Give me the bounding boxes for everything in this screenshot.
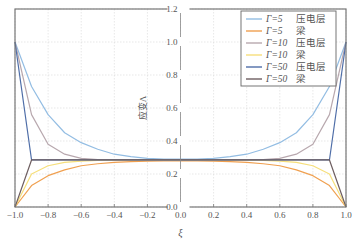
- x-axis-label: ξ: [178, 227, 183, 239]
- legend-label: 压电层: [296, 37, 326, 48]
- legend-gamma: Γ=50: [265, 62, 288, 72]
- x-tick-label: 0.8: [307, 210, 319, 220]
- legend-gamma: Γ=10: [265, 38, 288, 48]
- legend-label: 梁: [296, 25, 306, 36]
- y-tick-label: 0.8: [166, 70, 178, 80]
- x-tick-label: 0.2: [208, 210, 219, 220]
- legend-gamma: Γ=5: [265, 26, 283, 36]
- legend-label: 压电层: [296, 13, 326, 24]
- y-tick-label: 0.0: [166, 202, 178, 212]
- legend-gamma: Γ=50: [265, 74, 288, 84]
- legend-gamma: Γ=5: [265, 14, 283, 24]
- legend-label: 梁: [296, 49, 306, 60]
- x-tick-label: 0.4: [241, 210, 253, 220]
- x-tick-label: −1.0: [7, 210, 24, 220]
- y-tick-label: 0.6: [166, 103, 178, 113]
- x-tick-label: −0.2: [139, 210, 155, 220]
- legend: Γ=5压电层Γ=5梁Γ=10压电层Γ=10梁Γ=50压电层Γ=50梁: [241, 11, 336, 86]
- legend-label: 压电层: [296, 61, 326, 72]
- y-axis-label: 应变Λ: [137, 95, 148, 120]
- legend-gamma: Γ=10: [265, 50, 288, 60]
- y-tick-label: 1.2: [166, 4, 177, 14]
- y-tick-label: 0.4: [166, 136, 178, 146]
- x-tick-label: 0.6: [274, 210, 286, 220]
- x-tick-label: 1.0: [340, 210, 352, 220]
- legend-label: 梁: [296, 73, 306, 84]
- y-tick-label: 0.2: [166, 169, 177, 179]
- y-tick-label: 1.0: [166, 37, 178, 47]
- y-axis-ticks: 0.00.20.40.60.81.01.2: [166, 4, 189, 212]
- x-tick-label: −0.4: [106, 210, 123, 220]
- x-tick-label: −0.8: [40, 210, 57, 220]
- strain-chart: −1.0−0.8−0.6−0.4−0.20.00.20.40.60.81.0 0…: [0, 0, 361, 244]
- x-tick-label: −0.6: [73, 210, 90, 220]
